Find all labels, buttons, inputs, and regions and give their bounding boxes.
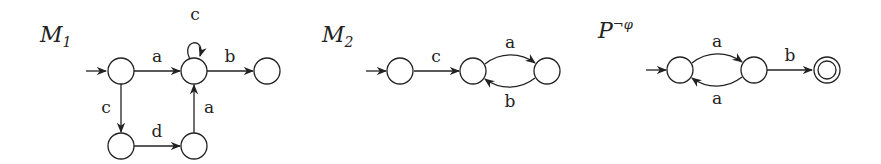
m1-edge-label: d xyxy=(152,121,163,141)
m1-state-3 xyxy=(108,133,134,159)
m2-state-0 xyxy=(387,58,413,84)
m2-edge-s1-s2 xyxy=(485,55,535,64)
m1-edge-label: c xyxy=(190,4,200,24)
m1-edge-label: c xyxy=(101,97,111,117)
p-state-0 xyxy=(667,57,693,83)
m2-edge-s2-s1 xyxy=(485,78,535,87)
p-edge-label: a xyxy=(712,88,722,108)
p-accepting-ring xyxy=(818,61,836,79)
m2-title: M2 xyxy=(321,22,354,50)
m1-self-loop-s1 xyxy=(188,43,201,59)
m1-edge-label: a xyxy=(152,46,162,66)
diagram-m1: M1 a c b c d a xyxy=(39,4,280,159)
p-edge-s0-s1 xyxy=(692,54,742,63)
m1-state-0 xyxy=(108,58,134,84)
diagram-m2: M2 c a b xyxy=(321,22,560,111)
p-state-1 xyxy=(741,57,767,83)
m1-edge-label: a xyxy=(204,97,214,117)
m2-edge-label: b xyxy=(505,91,516,111)
p-edge-label: a xyxy=(712,31,722,51)
p-edge-s1-s0 xyxy=(692,77,742,86)
p-title: P¬φ xyxy=(597,17,634,43)
m2-state-2 xyxy=(534,58,560,84)
m1-edge-label: b xyxy=(225,46,236,66)
p-edge-label: b xyxy=(785,45,796,65)
m1-state-1 xyxy=(181,58,207,84)
diagram-p-not-phi: P¬φ a a b xyxy=(597,17,840,108)
m1-state-2 xyxy=(254,58,280,84)
m1-state-4 xyxy=(181,133,207,159)
m2-state-1 xyxy=(460,58,486,84)
automata-figure: M1 a c b c d a M2 c a b xyxy=(0,0,881,164)
m2-edge-label: c xyxy=(431,46,441,66)
m2-edge-label: a xyxy=(505,32,515,52)
m1-title: M1 xyxy=(39,22,71,50)
